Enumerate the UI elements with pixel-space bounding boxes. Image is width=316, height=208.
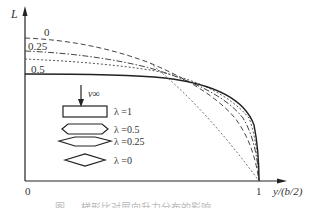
freestream-label: v∞ [88, 88, 100, 99]
y-axis-label: L [11, 9, 18, 20]
x-axis-arrow-icon [277, 179, 287, 184]
legend-label-lambda-1: λ =1 [114, 106, 132, 117]
curve-lambda-0.5 [25, 59, 259, 181]
planform-rectangle-icon [63, 106, 107, 117]
curve-lambda-0-tip [150, 63, 259, 181]
planform-lambda-0.5-icon [62, 124, 108, 134]
planform-lambda-0.25-icon [59, 137, 111, 146]
curve-label-0: 0 [44, 27, 50, 38]
figure-caption: 图 ... 梯形比对展向升力分布的影响 [55, 199, 211, 208]
x-axis-origin-label: 0 [25, 186, 31, 197]
legend-label-lambda-0.25: λ =0.25 [114, 136, 145, 147]
x-axis-tick-1: 1 [256, 186, 262, 197]
x-axis-label: y/(b/2) [273, 186, 302, 197]
y-axis-arrow-icon [23, 6, 28, 16]
legend-label-lambda-0: λ =0 [114, 155, 132, 166]
planform-diamond-icon [65, 154, 105, 166]
curve-label-0.5: 0.5 [31, 64, 45, 75]
curve-lambda-1 [25, 74, 259, 181]
curve-lambda-0.25 [25, 51, 259, 181]
curve-lambda-0 [25, 38, 259, 181]
legend-label-lambda-0.5: λ =0.5 [114, 124, 140, 135]
curve-label-0.25: 0.25 [28, 41, 47, 52]
chart-figure: L 0 0.25 0.5 v∞ λ =1 λ =0.5 λ =0.25 λ =0… [0, 0, 316, 208]
